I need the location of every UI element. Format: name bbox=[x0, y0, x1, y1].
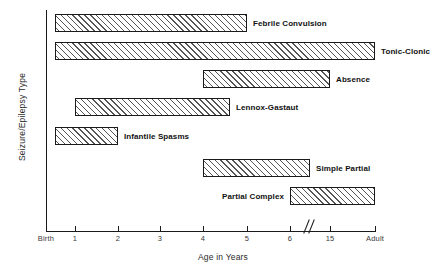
bar-tonic-clonic bbox=[55, 42, 375, 60]
x-tick-1 bbox=[75, 226, 76, 231]
x-axis-line bbox=[46, 231, 375, 232]
x-tick-adult bbox=[375, 226, 376, 232]
bar-label-infantile-spasms: Infantile Spasms bbox=[124, 132, 189, 141]
bar-label-febrile-convulsion: Febrile Convulsion bbox=[253, 19, 327, 28]
bar-partial-complex bbox=[290, 187, 375, 205]
x-tick-label-1: 1 bbox=[55, 234, 95, 243]
bar-label-absence: Absence bbox=[336, 75, 370, 84]
bar-label-partial-complex: Partial Complex bbox=[156, 192, 284, 201]
x-tick-label-5: 5 bbox=[227, 234, 267, 243]
x-tick-label-15: 15 bbox=[310, 234, 350, 243]
x-tick-2 bbox=[118, 226, 119, 231]
x-tick-3 bbox=[160, 226, 161, 231]
x-tick-label-6: 6 bbox=[270, 234, 310, 243]
x-tick-label-adult: Adult bbox=[355, 234, 395, 243]
x-tick-4 bbox=[203, 226, 204, 231]
bar-label-simple-partial: Simple Partial bbox=[316, 164, 370, 173]
bar-label-lennox-gastaut: Lennox-Gastaut bbox=[236, 103, 298, 112]
x-tick-5 bbox=[247, 226, 248, 231]
y-axis-line bbox=[46, 10, 47, 232]
x-tick-label-4: 4 bbox=[183, 234, 223, 243]
axis-break-icon bbox=[300, 219, 320, 235]
bar-absence bbox=[203, 70, 330, 88]
bar-febrile-convulsion bbox=[55, 14, 247, 32]
x-tick-6 bbox=[290, 226, 291, 231]
y-axis-title: Seizure/Epilepsy Type bbox=[17, 17, 27, 217]
bar-infantile-spasms bbox=[55, 127, 118, 145]
x-tick-label-2: 2 bbox=[98, 234, 138, 243]
x-tick-label-3: 3 bbox=[140, 234, 180, 243]
x-axis-title: Age in Years bbox=[0, 252, 446, 262]
bar-label-tonic-clonic: Tonic-Clonic bbox=[381, 47, 430, 56]
bar-simple-partial bbox=[203, 159, 310, 177]
seizure-age-range-chart: Birth12345615Adult Febrile ConvulsionTon… bbox=[0, 0, 446, 273]
x-tick-15 bbox=[330, 226, 331, 231]
bar-lennox-gastaut bbox=[75, 98, 230, 116]
